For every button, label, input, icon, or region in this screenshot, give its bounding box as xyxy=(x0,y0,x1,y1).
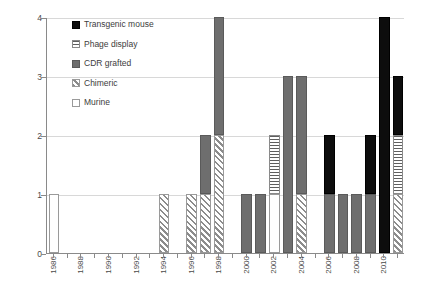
x-axis-tick-mark xyxy=(328,254,329,258)
x-axis-tick-mark xyxy=(53,254,54,258)
bar-column xyxy=(351,194,362,253)
x-axis-tick-label: 2008 xyxy=(352,256,361,274)
bar-segment xyxy=(269,194,280,253)
bar-segment xyxy=(255,194,266,253)
x-axis-tick-mark xyxy=(136,254,137,258)
x-axis-tick-mark xyxy=(259,254,260,258)
bar-column xyxy=(255,194,266,253)
legend-swatch-icon xyxy=(72,79,80,87)
legend-item-transgenic-mouse: Transgenic mouse xyxy=(72,20,154,29)
x-axis-tick-mark xyxy=(397,254,398,258)
bar-segment xyxy=(393,76,404,135)
legend-item-label: Chimeric xyxy=(84,79,118,88)
legend-swatch-icon xyxy=(72,21,80,29)
legend-swatch-icon xyxy=(72,40,80,48)
x-axis-tick-mark xyxy=(163,254,164,258)
x-axis-tick-mark xyxy=(204,254,205,258)
x-axis-tick-mark xyxy=(383,254,384,258)
x-axis-tick-mark xyxy=(177,254,178,258)
bar-column xyxy=(283,76,294,253)
bar-segment xyxy=(214,135,225,253)
bar-segment xyxy=(338,194,349,253)
x-axis-tick-label: 2000 xyxy=(242,256,251,274)
bar-column xyxy=(296,76,307,253)
bar-column xyxy=(324,135,335,253)
x-axis-tick-mark xyxy=(80,254,81,258)
x-axis-tick-label: 2006 xyxy=(324,256,333,274)
legend-item-label: Transgenic mouse xyxy=(84,20,154,29)
bar-column xyxy=(393,76,404,253)
bar-segment xyxy=(296,194,307,253)
bar-column xyxy=(49,194,60,253)
x-axis-tick-label: 1986 xyxy=(49,256,58,274)
bar-segment xyxy=(283,76,294,253)
legend-item-murine: Murine xyxy=(72,98,154,107)
x-axis-tick-label: 2010 xyxy=(379,256,388,274)
bar-segment xyxy=(365,135,376,194)
legend-item-label: Phage display xyxy=(84,40,137,49)
bar-column xyxy=(338,194,349,253)
legend-item-label: Murine xyxy=(84,98,110,107)
bar-segment xyxy=(214,17,225,135)
bar-column xyxy=(214,17,225,253)
x-axis-tick-label: 2002 xyxy=(269,256,278,274)
x-axis-tick-label: 1988 xyxy=(76,256,85,274)
y-axis-tick-label: 4 xyxy=(24,13,42,23)
bar-column xyxy=(186,194,197,253)
bar-column xyxy=(269,135,280,253)
bar-segment xyxy=(200,194,211,253)
x-axis-tick-label: 1994 xyxy=(159,256,168,274)
bar-segment xyxy=(200,135,211,194)
bar-segment xyxy=(351,194,362,253)
y-axis-tick-label: 0 xyxy=(24,249,42,259)
x-axis-tick-mark xyxy=(273,254,274,258)
y-axis-tick-label: 2 xyxy=(24,131,42,141)
x-axis-tick-mark xyxy=(108,254,109,258)
bar-column xyxy=(241,194,252,253)
x-axis-tick-mark xyxy=(94,254,95,258)
x-axis-tick-label: 1996 xyxy=(187,256,196,274)
bar-segment xyxy=(393,135,404,194)
x-axis-tick-mark xyxy=(301,254,302,258)
stacked-bar-chart: 01234 1986198819901992199419961998200020… xyxy=(0,0,429,296)
bar-segment xyxy=(324,135,335,194)
x-axis-tick-mark xyxy=(67,254,68,258)
bar-segment xyxy=(49,194,60,253)
x-axis-tick-label: 1992 xyxy=(132,256,141,274)
legend-item-chimeric: Chimeric xyxy=(72,79,154,88)
bar-segment xyxy=(269,135,280,194)
bar-segment xyxy=(186,194,197,253)
x-axis-tick-mark xyxy=(218,254,219,258)
x-axis-tick-mark xyxy=(246,254,247,258)
x-axis-tick-mark xyxy=(342,254,343,258)
bar-segment xyxy=(365,194,376,253)
x-axis-tick-mark xyxy=(370,254,371,258)
x-axis-tick-label: 2004 xyxy=(297,256,306,274)
legend-item-phage-display: Phage display xyxy=(72,40,154,49)
x-axis-tick-label: 1998 xyxy=(214,256,223,274)
bar-segment xyxy=(379,17,390,253)
bar-segment xyxy=(393,194,404,253)
bar-segment xyxy=(324,194,335,253)
bar-column xyxy=(200,135,211,253)
legend-swatch-icon xyxy=(72,99,80,107)
x-axis-labels: 1986198819901992199419961998200020022004… xyxy=(46,256,404,296)
x-axis-tick-mark xyxy=(232,254,233,258)
bar-segment xyxy=(241,194,252,253)
bar-segment xyxy=(296,76,307,194)
bar-segment xyxy=(159,194,170,253)
x-axis-tick-label: 1990 xyxy=(104,256,113,274)
x-axis-tick-mark xyxy=(122,254,123,258)
y-axis-tick-label: 3 xyxy=(24,72,42,82)
x-axis-tick-mark xyxy=(149,254,150,258)
x-axis-tick-mark xyxy=(315,254,316,258)
y-axis-tick-mark xyxy=(41,254,46,255)
legend-swatch-icon xyxy=(72,60,80,68)
bar-column xyxy=(365,135,376,253)
x-axis-tick-mark xyxy=(287,254,288,258)
bar-column xyxy=(379,17,390,253)
legend-item-label: CDR grafted xyxy=(84,59,131,68)
y-axis-tick-label: 1 xyxy=(24,190,42,200)
legend-item-cdr-grafted: CDR grafted xyxy=(72,59,154,68)
x-axis-tick-mark xyxy=(356,254,357,258)
